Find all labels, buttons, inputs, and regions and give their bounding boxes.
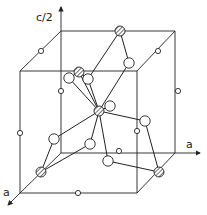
a-axis-front-label: a [3,186,10,199]
crystal-structure-diagram: c/2 a a [0,0,207,215]
bonds [41,31,159,172]
a-axis-right-label: a [186,138,193,151]
diagram-canvas: c/2 a a [0,0,207,215]
a-axis-front-arrow [8,193,20,205]
hatched-atoms [36,26,164,177]
c-axis-label: c/2 [36,11,53,24]
